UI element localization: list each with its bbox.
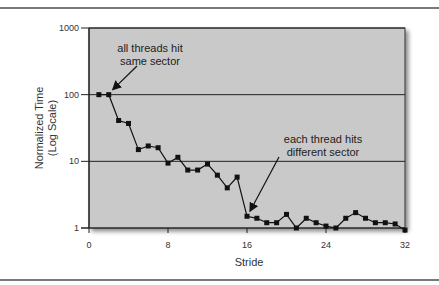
data-point [185,168,190,173]
data-point [254,216,259,221]
data-point [116,118,121,123]
data-point [353,210,358,215]
data-point [225,185,230,190]
x-tick-label: 16 [242,240,252,250]
annotation-different-sector: each thread hitsdifferent sector [284,133,363,158]
data-point [363,216,368,221]
data-point [215,173,220,178]
x-tick-label: 0 [86,240,91,250]
data-point [264,220,269,225]
data-point [393,221,398,226]
data-point [245,214,250,219]
data-point [274,220,279,225]
y-axis-label: Normalized Time(Log Scale) [33,87,58,170]
chart: 1101001000 08162432 all threads hitsame … [0,0,439,285]
data-point [324,224,329,229]
data-point [343,216,348,221]
y-tick-label: 100 [64,90,79,100]
data-point [146,143,151,148]
y-axis-label-line: Normalized Time [33,87,45,170]
data-point [403,228,408,233]
data-point [106,92,111,97]
x-tick-label: 32 [400,240,410,250]
data-point [294,226,299,231]
data-point [166,161,171,166]
data-point [156,145,161,150]
x-tick-labels: 08162432 [86,240,410,250]
data-point [195,168,200,173]
y-tick-labels: 1101001000 [59,23,79,233]
x-tick-label: 24 [321,240,331,250]
data-point [96,92,101,97]
data-point [284,212,289,217]
x-tick-label: 8 [165,240,170,250]
data-point [304,216,309,221]
y-tick-label: 10 [69,156,79,166]
data-point [126,121,131,126]
data-point [333,226,338,231]
annotation-same-sector: all threads hitsame sector [117,42,182,67]
data-point [235,175,240,180]
y-axis-label-line: (Log Scale) [46,100,58,156]
data-point [373,220,378,225]
y-tick-label: 1000 [59,23,79,33]
data-point [136,147,141,152]
data-point [175,155,180,160]
data-point [383,220,388,225]
x-axis-label: Stride [235,256,264,268]
data-point [205,162,210,167]
data-point [314,220,319,225]
y-tick-label: 1 [74,223,79,233]
